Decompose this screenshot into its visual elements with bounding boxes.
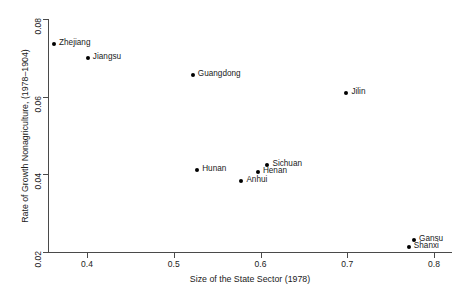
y-axis-tick-label: 0.04 — [33, 173, 43, 190]
y-axis-tick — [43, 174, 48, 175]
x-axis-tick — [347, 253, 348, 258]
scatter-plot-figure: 0.020.040.060.08 0.40.50.60.70.8 Rate of… — [0, 0, 456, 294]
data-point-label: Jilin — [351, 87, 365, 96]
data-point-label: Anhui — [246, 175, 267, 184]
data-point-marker — [407, 245, 411, 249]
x-axis-tick-label: 0.8 — [428, 259, 440, 269]
y-axis-tick — [43, 97, 48, 98]
data-point-marker — [86, 56, 90, 60]
y-axis-tick-label: 0.08 — [33, 18, 43, 35]
data-point-marker — [191, 73, 195, 77]
data-point-label: Shanxi — [414, 241, 439, 250]
y-axis-tick-label: 0.06 — [33, 96, 43, 113]
data-point-marker — [195, 168, 199, 172]
x-axis-tick-label: 0.4 — [81, 259, 93, 269]
y-axis-tick-label: 0.02 — [33, 251, 43, 268]
y-axis-tick — [43, 252, 48, 253]
data-point-label: Zhejiang — [59, 38, 90, 47]
data-point-label: Hunan — [202, 164, 226, 173]
data-point-marker — [239, 179, 243, 183]
data-point-marker — [256, 170, 260, 174]
x-axis-tick-label: 0.5 — [168, 259, 180, 269]
x-axis-tick — [174, 253, 175, 258]
x-axis-tick-label: 0.7 — [341, 259, 353, 269]
x-axis-tick — [261, 253, 262, 258]
x-axis-tick — [434, 253, 435, 258]
data-point-label: Guangdong — [198, 69, 241, 78]
data-point-label: Jiangsu — [93, 52, 121, 61]
y-axis-title: Rate of Growth Nonagriculture, (1978–190… — [20, 16, 30, 256]
x-axis-line — [48, 252, 452, 253]
y-axis-line — [48, 19, 49, 253]
data-point-marker — [344, 91, 348, 95]
data-point-marker — [52, 42, 56, 46]
x-axis-tick — [87, 253, 88, 258]
y-axis-tick — [43, 19, 48, 20]
data-point-label: Henan — [263, 166, 287, 175]
x-axis-title: Size of the State Sector (1978) — [48, 274, 452, 284]
x-axis-tick-label: 0.6 — [255, 259, 267, 269]
